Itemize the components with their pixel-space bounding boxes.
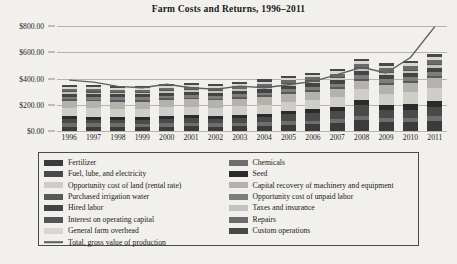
- legend-label: Seed: [253, 170, 268, 178]
- legend-label: General farm overhead: [68, 227, 139, 235]
- legend-item: Fertilizer: [44, 157, 229, 168]
- legend-swatch-icon: [229, 182, 248, 188]
- legend-label: Total, gross value of production: [68, 239, 166, 247]
- legend-swatch-icon: [44, 160, 63, 166]
- chart-legend: FertilizerFuel, lube, and electricityOpp…: [38, 152, 419, 246]
- x-axis-label: 2009: [378, 133, 393, 142]
- x-axis-label: 2003: [232, 133, 247, 142]
- x-axis-label: 2006: [305, 133, 320, 142]
- legend-item: Capital recovery of machinery and equipm…: [229, 180, 414, 191]
- x-axis-label: 1999: [135, 133, 150, 142]
- legend-label: Repairs: [253, 216, 276, 224]
- legend-swatch-icon: [229, 194, 248, 200]
- x-axis-label: 2007: [330, 133, 345, 142]
- x-axis-label: 1996: [62, 133, 77, 142]
- legend-label: Purchased irrigation water: [68, 193, 149, 201]
- legend-label: Interest on operating capital: [68, 216, 154, 224]
- legend-item: Taxes and insurance: [229, 203, 414, 214]
- legend-swatch-icon: [44, 205, 63, 211]
- line-series: [57, 26, 447, 131]
- legend-item: Repairs: [229, 214, 414, 225]
- legend-label: Taxes and insurance: [253, 204, 315, 212]
- x-axis-label: 1997: [86, 133, 101, 142]
- y-axis-label: $800.00: [19, 22, 44, 31]
- x-axis-label: 2000: [159, 133, 174, 142]
- legend-swatch-icon: [229, 160, 248, 166]
- legend-label: Fertilizer: [68, 159, 96, 167]
- legend-swatch-icon: [229, 171, 248, 177]
- legend-swatch-icon: [44, 228, 63, 234]
- chart-title: Farm Costs and Returns, 1996–2011: [0, 4, 457, 14]
- x-axis-label: 2001: [183, 133, 198, 142]
- y-axis-tick: [48, 78, 55, 79]
- legend-swatch-icon: [229, 217, 248, 223]
- plot-area: $0.00$200.00$400.00$600.00$800.00: [57, 26, 447, 131]
- legend-swatch-icon: [44, 217, 63, 223]
- line-swatch-icon: [44, 239, 63, 245]
- legend-item: Opportunity cost of unpaid labor: [229, 191, 414, 202]
- legend-item: Opportunity cost of land (rental rate): [44, 180, 229, 191]
- x-axis-label: 1998: [110, 133, 125, 142]
- y-axis-label: $200.00: [19, 100, 44, 109]
- x-axis-label: 2011: [427, 133, 442, 142]
- legend-swatch-icon: [44, 171, 63, 177]
- legend-item: Custom operations: [229, 225, 414, 236]
- legend-item: Hired labor: [44, 203, 229, 214]
- legend-item: General farm overhead: [44, 225, 229, 236]
- y-axis-tick: [48, 131, 55, 132]
- y-axis-label: $600.00: [19, 48, 44, 57]
- legend-swatch-icon: [229, 228, 248, 234]
- legend-label: Custom operations: [253, 227, 311, 235]
- x-axis-label: 2005: [281, 133, 296, 142]
- legend-swatch-icon: [229, 205, 248, 211]
- gridline: [57, 131, 447, 132]
- legend-item: Chemicals: [229, 157, 414, 168]
- legend-item: Seed: [229, 168, 414, 179]
- legend-column-right: ChemicalsSeedCapital recovery of machine…: [229, 157, 414, 237]
- x-axis-label: 2002: [208, 133, 223, 142]
- y-axis-tick: [48, 26, 55, 27]
- legend-label: Chemicals: [253, 159, 285, 167]
- chart-figure: Farm Costs and Returns, 1996–2011 $0.00$…: [0, 0, 457, 264]
- x-axis-labels: 1996199719981999200020012002200320042005…: [57, 133, 447, 145]
- y-axis-tick: [48, 52, 55, 53]
- legend-label: Opportunity cost of land (rental rate): [68, 182, 181, 190]
- x-axis-label: 2010: [403, 133, 418, 142]
- legend-item-line: Total, gross value of production: [44, 237, 413, 248]
- x-axis-label: 2004: [257, 133, 272, 142]
- y-axis-label: $400.00: [19, 74, 44, 83]
- line-path: [69, 27, 435, 90]
- legend-label: Opportunity cost of unpaid labor: [253, 193, 354, 201]
- y-axis-tick: [48, 104, 55, 105]
- x-axis-label: 2008: [354, 133, 369, 142]
- legend-item: Interest on operating capital: [44, 214, 229, 225]
- legend-swatch-icon: [44, 182, 63, 188]
- legend-item: Purchased irrigation water: [44, 191, 229, 202]
- legend-swatch-icon: [44, 194, 63, 200]
- legend-column-left: FertilizerFuel, lube, and electricityOpp…: [44, 157, 229, 237]
- legend-label: Capital recovery of machinery and equipm…: [253, 182, 394, 190]
- legend-item: Fuel, lube, and electricity: [44, 168, 229, 179]
- y-axis-label: $0.00: [27, 127, 44, 136]
- legend-label: Hired labor: [68, 204, 103, 212]
- legend-label: Fuel, lube, and electricity: [68, 170, 146, 178]
